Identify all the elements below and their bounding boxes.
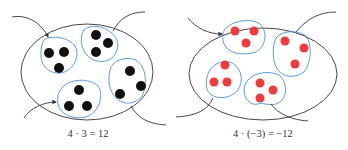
group-2 [81, 26, 118, 61]
dot [231, 27, 240, 36]
caption-positive: 4 · 3 = 12 [68, 128, 109, 139]
dot [136, 81, 146, 91]
dot [242, 39, 251, 48]
dot [269, 86, 278, 95]
multiplication-diagrams [0, 0, 348, 150]
dot [115, 89, 125, 99]
dot [223, 78, 232, 87]
outer-set-ellipse [189, 28, 337, 120]
group-3 [206, 61, 241, 98]
dot [91, 30, 101, 40]
dot [64, 101, 74, 111]
dot [300, 44, 309, 53]
dot [250, 27, 259, 36]
group-1 [223, 21, 265, 54]
dot [221, 61, 230, 70]
group-4 [58, 80, 101, 118]
dot [291, 60, 300, 69]
dot [125, 66, 135, 76]
group-1 [41, 37, 77, 73]
group-4 [244, 73, 286, 105]
dot [256, 79, 265, 88]
dot [103, 38, 113, 48]
dot [82, 101, 92, 111]
group-2 [273, 32, 310, 77]
dot [281, 37, 290, 46]
dot [74, 85, 84, 95]
dot [59, 47, 69, 57]
group-3 [109, 58, 146, 103]
dot [256, 94, 265, 103]
dot [91, 47, 101, 57]
dot [54, 63, 64, 73]
dot [44, 48, 54, 58]
diagram-negative [176, 12, 337, 121]
dot [210, 78, 219, 87]
caption-negative: 4 · (−3) = −12 [233, 128, 293, 139]
diagram-positive [12, 12, 166, 125]
